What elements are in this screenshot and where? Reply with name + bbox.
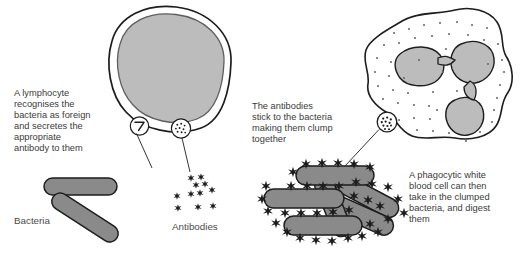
caption-stick-line-1: stick to the bacteria [252,112,333,122]
caption-stick-line-3: together [252,134,286,144]
caption-lymphocyte-line-0: A lymphocyte [14,88,69,98]
caption-phagocyte-line-2: take in the clumped [409,192,490,202]
caption-phagocyte-line-1: blood cell can then [409,181,487,191]
phagocyte-nucleus-lobe [395,47,444,86]
caption-phagocyte-line-4: them [409,214,430,224]
lymphocyte-cell [109,6,231,131]
immune-response-diagram: A lymphocyte recognises the bacteria as … [0,0,526,280]
caption-phagocyte: A phagocytic white blood cell can then t… [409,170,491,224]
caption-lymphocyte: A lymphocyte recognises the bacteria as … [14,88,91,153]
caption-lymphocyte-line-3: and secretes the [14,121,83,131]
inset-antibody-symbol [130,117,152,168]
caption-phagocyte-line-0: A phagocytic white [409,170,486,180]
free-antibodies-group [174,173,217,211]
inset-clumped-marker [345,112,397,166]
bacteria-group [44,178,121,245]
clumped-bacteria-group [257,158,409,246]
label-antibodies: Antibodies [172,221,218,232]
clumped-bacterium [296,166,374,185]
inset-antibody-cluster [171,119,190,172]
caption-antibodies-stick: The antibodies stick to the bacteria mak… [252,101,333,144]
caption-phagocyte-line-3: bacteria, and digest [409,203,491,213]
caption-stick-line-2: making them clump [252,123,333,133]
clumped-bacterium [284,216,362,235]
caption-lymphocyte-line-5: antibody to them [14,143,83,153]
bacterium-rod [44,178,117,195]
caption-stick-line-0: The antibodies [252,101,313,111]
lymphocyte-nucleus [118,14,225,123]
caption-lymphocyte-line-1: recognises the [14,99,74,109]
bacterium-rod [49,190,122,246]
caption-lymphocyte-line-2: bacteria as foreign [14,110,91,120]
clumped-bacterium [264,189,344,208]
phagocyte-nucleus-lobe [446,97,484,135]
phagocyte-nucleus-lobe [451,41,494,83]
label-bacteria: Bacteria [14,215,50,226]
caption-lymphocyte-line-4: appropriate [14,132,61,142]
